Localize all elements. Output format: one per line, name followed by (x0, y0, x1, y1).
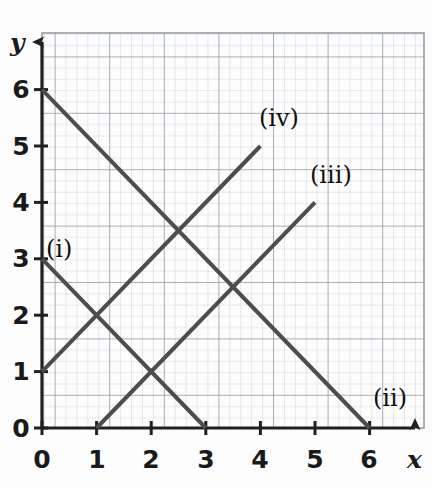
y-tick-label-1: 1 (10, 359, 32, 384)
x-axis-label: x (407, 447, 422, 472)
y-tick-label-2: 2 (10, 303, 32, 328)
y-tick-label-6: 6 (10, 77, 32, 102)
x-tick-label-6: 6 (358, 447, 380, 472)
x-tick-label-2: 2 (140, 447, 162, 472)
x-tick-label-4: 4 (249, 447, 271, 472)
y-tick-label-3: 3 (10, 246, 32, 271)
y-axis-label: y (10, 30, 25, 55)
x-tick-label-3: 3 (195, 447, 217, 472)
line-label-i: (i) (46, 237, 72, 261)
line-label-ii: (ii) (373, 386, 407, 410)
x-tick-label-0: 0 (31, 447, 53, 472)
x-tick-label-5: 5 (304, 447, 326, 472)
line-label-iv: (iv) (259, 106, 299, 130)
y-tick-label-0: 0 (10, 416, 32, 441)
x-tick-label-1: 1 (86, 447, 108, 472)
grid-area (42, 33, 424, 428)
y-tick-label-5: 5 (10, 134, 32, 159)
y-tick-label-4: 4 (10, 190, 32, 215)
graph-figure: 0 1 2 3 4 5 6 0 1 2 3 4 5 6 y x (i) (ii)… (0, 0, 432, 488)
line-label-iii: (iii) (310, 163, 352, 187)
